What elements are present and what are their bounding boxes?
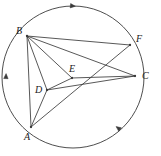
point-label-c: C: [142, 71, 149, 81]
geometry-figure: ABCDEF: [0, 0, 161, 156]
vertex-dot-b: [26, 35, 28, 37]
segment-bf: [27, 36, 130, 45]
vertex-dot-c: [134, 75, 136, 77]
segment-bc: [27, 36, 135, 76]
point-label-e: E: [69, 64, 75, 74]
point-label-f: F: [136, 34, 142, 44]
vertex-dot-e: [71, 77, 73, 79]
segment-ad: [31, 90, 47, 127]
arc-marker-top-icon: [70, 4, 75, 9]
vertex-dot-f: [129, 44, 131, 46]
circumscribed-circle: [2, 6, 144, 148]
vertex-dot-a: [30, 126, 32, 128]
vertex-dot-d: [46, 89, 48, 91]
arc-marker-left-icon: [4, 74, 9, 79]
segment-dc: [47, 76, 135, 90]
segment-layer: [27, 36, 135, 127]
point-label-b: B: [16, 26, 22, 36]
segment-be: [27, 36, 72, 78]
segment-ba: [27, 36, 31, 127]
segment-bd: [27, 36, 47, 90]
vertex-dot-layer: [26, 35, 136, 128]
arc-marker-layer: [4, 4, 122, 132]
point-label-a: A: [24, 132, 30, 142]
circle-layer: [2, 6, 144, 148]
point-label-d: D: [35, 85, 42, 95]
